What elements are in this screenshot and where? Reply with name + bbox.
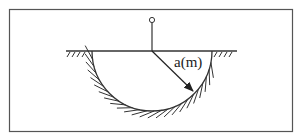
radius-label: a(m) [174, 54, 202, 71]
ground-hatch-left [67, 52, 85, 57]
electrode-post [149, 17, 154, 51]
hemisphere-diagram: a(m) [0, 0, 306, 138]
frame [10, 10, 293, 132]
ground-hatch-right [214, 52, 232, 57]
terminal-icon [149, 17, 154, 22]
